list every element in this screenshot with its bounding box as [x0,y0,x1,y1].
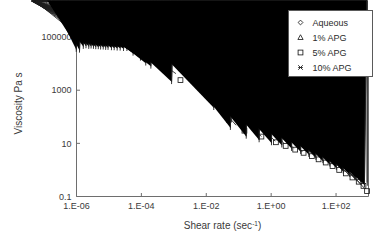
y-tick-label: 1000 [51,85,71,95]
x-tick-label: 1.E-02 [193,201,220,211]
x-tick-label: 1.E+00 [257,201,286,211]
viscosity-vs-shear-rate-scatter-plot: 1.E-061.E-041.E-021.E+001.E+020.11010001… [0,0,381,241]
legend-label: 10% APG [313,63,352,73]
chart-figure: 1.E-061.E-041.E-021.E+001.E+020.11010001… [0,0,381,241]
marker-square [178,78,183,83]
y-tick-label: 0.1 [59,192,72,202]
y-axis-title: Viscosity Pa s [13,72,24,134]
legend-label: 5% APG [313,48,347,58]
x-axis-title-base: Shear rate (sec [184,220,252,231]
x-axis-title: Shear rate (sec-1) [184,220,262,231]
y-tick-label: 10 [61,139,71,149]
x-tick-label: 1.E-06 [63,201,90,211]
legend-label: 1% APG [313,33,347,43]
y-tick-label: 100000 [41,32,71,42]
x-tick-label: 1.E+02 [322,201,351,211]
legend-label: Aqueous [313,18,349,28]
marker-square [283,144,288,149]
chart-legend: Aqueous1% APG5% APG10% APG [289,11,373,77]
x-axis-title-tail: ) [258,220,261,231]
x-tick-label: 1.E-04 [128,201,155,211]
